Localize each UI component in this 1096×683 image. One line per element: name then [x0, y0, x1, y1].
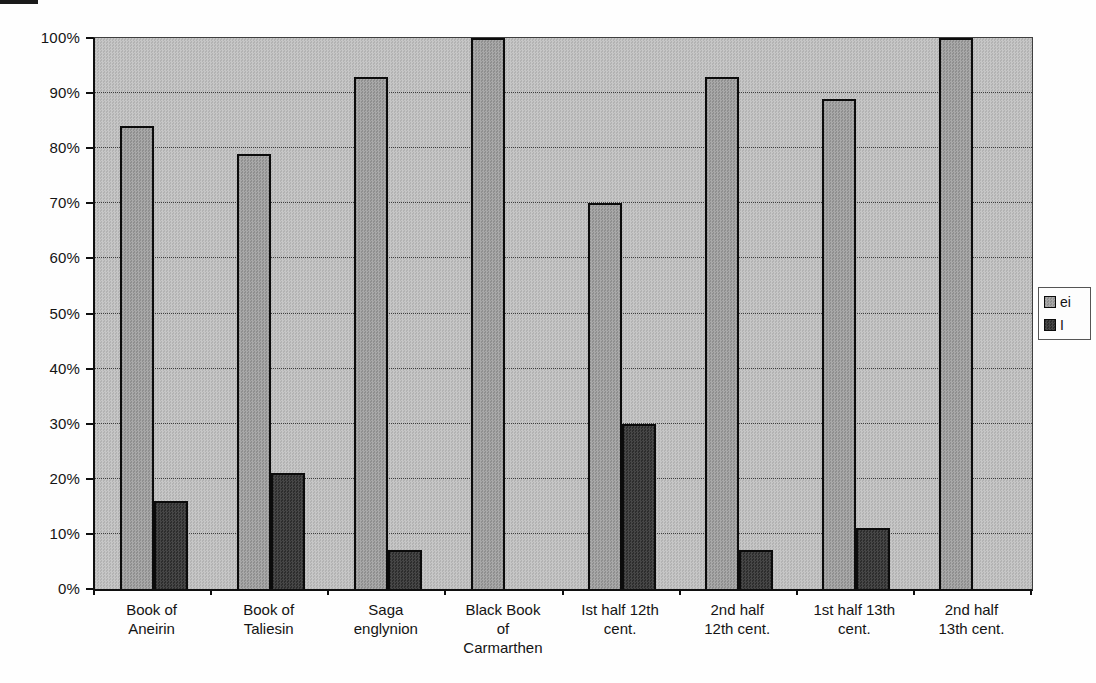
- legend-item-ei: ei: [1044, 294, 1086, 310]
- x-category-label-1: Book ofTaliesin: [210, 600, 327, 657]
- x-category-label-4: Ist half 12thcent.: [562, 600, 679, 657]
- y-tick-label-80: 80%: [49, 139, 80, 156]
- y-tick-label-100: 100%: [41, 29, 80, 46]
- x-axis-labels: Book ofAneirinBook ofTaliesinSagaenglyni…: [93, 600, 1030, 657]
- y-tick-label-60: 60%: [49, 249, 80, 266]
- bar-ei-4: [588, 203, 622, 589]
- x-category-label-7: 2nd half13th cent.: [913, 600, 1030, 657]
- y-tick-label-90: 90%: [49, 84, 80, 101]
- bar-group-2: [329, 38, 446, 589]
- x-category-label-0: Book ofAneirin: [93, 600, 210, 657]
- y-axis-labels: 0%10%20%30%40%50%60%70%80%90%100%: [0, 37, 85, 588]
- bar-I-4: [622, 424, 656, 589]
- bar-I-0: [154, 501, 188, 589]
- y-tick-label-20: 20%: [49, 469, 80, 486]
- bar-group-7: [915, 38, 1032, 589]
- bar-group-4: [564, 38, 681, 589]
- y-tick-label-40: 40%: [49, 359, 80, 376]
- x-category-label-5: 2nd half12th cent.: [679, 600, 796, 657]
- legend-swatch-i-icon: [1044, 319, 1056, 331]
- legend-label-i: I: [1060, 317, 1064, 333]
- legend-swatch-ei-icon: [1044, 296, 1056, 308]
- y-tick-label-0: 0%: [58, 580, 80, 597]
- bar-ei-2: [354, 77, 388, 589]
- bar-ei-1: [237, 154, 271, 589]
- y-axis-ticks: [86, 37, 93, 588]
- scan-artifact: [0, 0, 38, 4]
- plot-area: [93, 37, 1033, 591]
- legend-label-ei: ei: [1060, 294, 1071, 310]
- bar-group-1: [212, 38, 329, 589]
- legend: ei I: [1038, 287, 1091, 340]
- x-category-label-6: 1st half 13thcent.: [796, 600, 913, 657]
- bar-ei-5: [705, 77, 739, 589]
- bar-I-2: [388, 550, 422, 589]
- bar-ei-7: [939, 38, 973, 589]
- bar-I-5: [739, 550, 773, 589]
- y-tick-label-50: 50%: [49, 304, 80, 321]
- x-category-label-2: Sagaenglynion: [327, 600, 444, 657]
- bar-groups: [95, 38, 1032, 589]
- y-tick-label-10: 10%: [49, 524, 80, 541]
- bar-ei-0: [120, 126, 154, 589]
- y-tick-label-30: 30%: [49, 414, 80, 431]
- y-tick-label-70: 70%: [49, 194, 80, 211]
- bar-group-5: [681, 38, 798, 589]
- bar-I-1: [271, 473, 305, 589]
- bar-ei-6: [822, 99, 856, 589]
- x-axis-ticks: [93, 590, 1030, 596]
- legend-item-i: I: [1044, 317, 1086, 333]
- x-category-label-3: Black BookofCarmarthen: [444, 600, 561, 657]
- bar-group-0: [95, 38, 212, 589]
- bar-group-6: [798, 38, 915, 589]
- bar-ei-3: [471, 38, 505, 589]
- bar-group-3: [446, 38, 563, 589]
- bar-I-6: [856, 528, 890, 589]
